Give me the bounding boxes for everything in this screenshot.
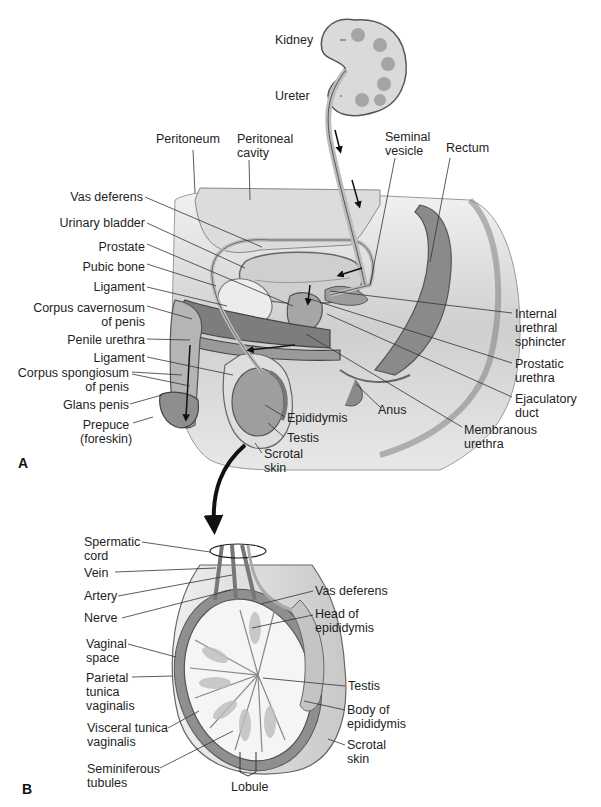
panel-label-b: B: [22, 781, 32, 797]
label-vas-deferens-b: Vas deferens: [315, 584, 388, 598]
label-internal-urethral-sphincter: Internal urethral sphincter: [515, 307, 566, 349]
glans-penis: [160, 392, 199, 428]
label-kidney: Kidney: [275, 33, 313, 47]
label-vas-deferens-a: Vas deferens: [70, 190, 143, 204]
label-seminiferous-tubules: Seminiferous tubules: [87, 762, 160, 790]
label-membranous-urethra: Membranous urethra: [464, 423, 537, 451]
label-epididymis-a: Epididymis: [287, 411, 347, 425]
label-peritoneal-cavity: Peritoneal cavity: [237, 132, 293, 160]
label-pubic-bone: Pubic bone: [82, 260, 145, 274]
label-ureter: Ureter: [275, 89, 310, 103]
label-scrotal-skin-b: Scrotal skin: [347, 738, 386, 766]
label-penile-urethra: Penile urethra: [67, 333, 145, 347]
label-peritoneum: Peritoneum: [156, 132, 220, 146]
spermatic-cord-ring: [210, 544, 266, 558]
label-artery: Artery: [84, 589, 117, 603]
label-prostatic-urethra: Prostatic urethra: [515, 357, 564, 385]
label-corpus-cavernosum: Corpus cavernosum of penis: [33, 301, 145, 329]
panel-b-drawing: [155, 544, 346, 788]
label-seminal-vesicle: Seminal vesicle: [385, 130, 430, 158]
label-nerve: Nerve: [84, 611, 117, 625]
label-testis-a: Testis: [287, 431, 319, 445]
label-glans-penis: Glans penis: [63, 398, 129, 412]
label-testis-b: Testis: [348, 679, 380, 693]
label-prepuce: Prepuce (foreskin): [80, 418, 132, 446]
label-scrotal-skin-a: Scrotal skin: [264, 447, 303, 475]
label-head-of-epididymis: Head of epididymis: [315, 607, 374, 635]
label-corpus-spongiosum: Corpus spongiosum of penis: [18, 366, 129, 394]
label-ejaculatory-duct: Ejaculatory duct: [515, 392, 577, 420]
label-spermatic-cord: Spermatic cord: [84, 535, 140, 563]
label-parietal-tunica-vaginalis: Parietal tunica vaginalis: [86, 671, 135, 713]
panel-label-a: A: [18, 455, 28, 471]
label-anus: Anus: [378, 403, 407, 417]
label-ligament-lower: Ligament: [94, 351, 145, 365]
label-vaginal-space: Vaginal space: [86, 637, 127, 665]
label-ligament-upper: Ligament: [94, 280, 145, 294]
label-visceral-tunica-vaginalis: Visceral tunica vaginalis: [87, 721, 168, 749]
label-rectum: Rectum: [446, 141, 489, 155]
label-prostate: Prostate: [98, 240, 145, 254]
label-body-of-epididymis: Body of epididymis: [347, 703, 406, 731]
label-lobule: Lobule: [231, 780, 269, 794]
label-vein: Vein: [84, 566, 108, 580]
label-urinary-bladder: Urinary bladder: [60, 216, 145, 230]
